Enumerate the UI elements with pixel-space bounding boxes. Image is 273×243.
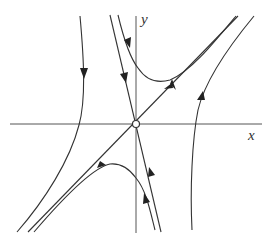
trajectory-lower: [34, 164, 155, 232]
saddle-point: [133, 121, 140, 128]
arrow-down-icon: [80, 68, 88, 79]
x-axis-label: x: [248, 128, 255, 143]
arrow-up-icon: [148, 167, 155, 177]
phase-portrait-canvas: [0, 0, 273, 243]
phase-portrait: y x: [0, 0, 273, 243]
trajectory-right: [191, 16, 254, 230]
arrow-up-icon: [143, 193, 150, 204]
arrow-up-right-icon: [164, 83, 173, 89]
y-axis-label: y: [141, 12, 148, 27]
arrow-down-icon: [120, 72, 128, 83]
